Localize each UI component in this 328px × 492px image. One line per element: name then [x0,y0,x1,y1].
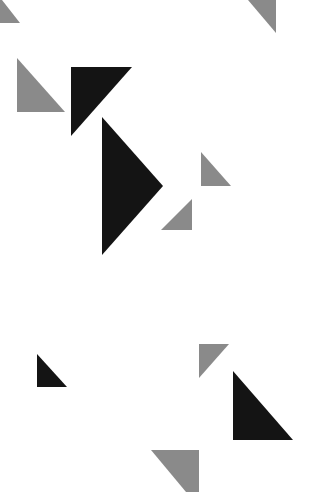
tri-lower-left-black-shape [37,354,67,387]
tri-top-left-gray-shape [0,0,20,23]
tri-lower-right-black-shape [233,371,293,440]
tri-left-gray-shape [17,58,65,112]
tri-bottom-gray-shape [151,450,199,492]
tri-mid-right-gray-shape [201,152,231,186]
tri-upper-black-shape [71,67,132,136]
tri-top-right-gray-shape [248,0,276,33]
triangle-artwork [0,0,328,492]
tri-lower-gray-shape [199,344,229,378]
tri-big-black-shape [102,117,163,255]
triangle-composition-canvas [0,0,328,492]
tri-mid-lower-gray-shape [161,199,192,230]
